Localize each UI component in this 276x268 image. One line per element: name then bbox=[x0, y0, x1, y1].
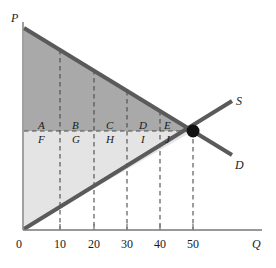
region-label-f: F bbox=[38, 134, 45, 145]
region-label-e: E bbox=[164, 120, 171, 131]
region-label-j: J bbox=[165, 134, 170, 145]
equilibrium-point-marker bbox=[187, 125, 200, 138]
x-tick-label-40: 40 bbox=[151, 238, 169, 250]
region-label-i: I bbox=[141, 134, 145, 145]
origin-label: 0 bbox=[13, 238, 25, 250]
x-tick-label-10: 10 bbox=[51, 238, 69, 250]
x-tick-label-50: 50 bbox=[184, 238, 202, 250]
region-label-g: G bbox=[72, 134, 80, 145]
region-label-d: D bbox=[139, 120, 147, 131]
region-label-a: A bbox=[38, 120, 45, 131]
region-label-h: H bbox=[106, 134, 114, 145]
x-tick-label-20: 20 bbox=[85, 238, 103, 250]
y-axis-label: P bbox=[11, 12, 18, 24]
x-tick-label-30: 30 bbox=[118, 238, 136, 250]
region-label-c: C bbox=[106, 120, 113, 131]
supply-curve-label: S bbox=[236, 95, 242, 107]
region-label-b: B bbox=[72, 120, 79, 131]
demand-curve-label: D bbox=[235, 159, 244, 171]
supply-demand-chart: P Q 0 10 20 30 40 50 S D A B C D E F G H… bbox=[0, 0, 276, 268]
x-axis-label: Q bbox=[252, 238, 261, 250]
